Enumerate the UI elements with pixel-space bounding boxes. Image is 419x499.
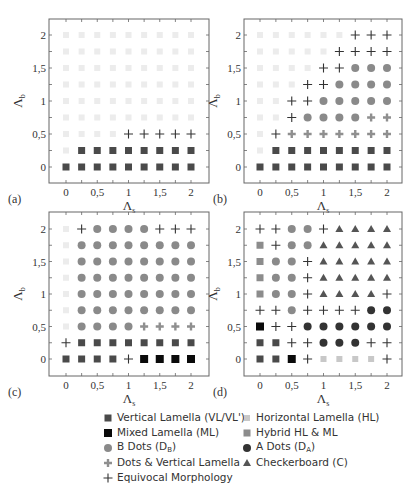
data-point-hl — [172, 65, 178, 71]
data-point-hl — [305, 65, 311, 71]
data-point-vl — [257, 339, 264, 346]
data-point-db — [93, 225, 101, 233]
data-point-eq — [335, 64, 344, 73]
y-tick-label: 0 — [41, 161, 47, 173]
data-point-db — [140, 258, 148, 266]
data-point-hl — [289, 49, 295, 55]
x-tick-label: 2 — [384, 186, 390, 198]
data-point-c — [351, 258, 359, 265]
panel-label: (b) — [213, 192, 227, 206]
panel-d: 00,511,5200,511,52ΛsΛb(d) — [205, 212, 402, 408]
data-point-db — [78, 306, 86, 314]
y-axis-label: Λb — [10, 94, 27, 107]
data-point-vl — [109, 147, 116, 154]
data-point-c — [320, 241, 328, 248]
x-tick-label: 2 — [188, 186, 194, 198]
data-point-hl — [188, 115, 194, 121]
data-point-hl — [321, 32, 327, 38]
data-point-ml — [104, 429, 112, 437]
data-point-hl — [63, 259, 69, 265]
data-point-dv — [187, 323, 195, 331]
x-tick-label: 0 — [63, 186, 69, 198]
data-point-eq — [303, 338, 312, 347]
data-point-dv — [288, 130, 296, 138]
data-point-dv — [367, 130, 375, 138]
data-point-vl — [188, 147, 195, 154]
data-point-db — [351, 97, 359, 105]
data-point-c — [335, 241, 343, 248]
data-point-vl — [109, 356, 116, 363]
data-point-hl — [141, 49, 147, 55]
data-point-hl — [157, 32, 163, 38]
data-point-hl — [63, 148, 69, 154]
data-point-vl — [352, 147, 359, 154]
data-point-hl — [257, 115, 263, 121]
data-point-eq — [287, 97, 296, 106]
data-point-hl — [110, 98, 116, 104]
x-tick-label: 1,5 — [153, 379, 167, 391]
data-point-hh — [257, 258, 264, 265]
data-point-dv — [383, 114, 391, 122]
data-point-eq — [171, 225, 180, 234]
data-point-c — [367, 274, 375, 281]
data-point-db — [171, 258, 179, 266]
data-point-da — [367, 306, 375, 314]
x-tick-label: 0 — [257, 379, 263, 391]
legend-item-ml: Mixed Lamella (ML) — [103, 425, 219, 439]
data-point-eq — [303, 80, 312, 89]
data-point-vl — [94, 356, 101, 363]
panel-b: 00,511,5200,511,52ΛsΛb(b) — [205, 19, 402, 215]
data-point-hl — [336, 32, 342, 38]
data-point-eq — [271, 225, 280, 234]
data-point-db — [335, 114, 343, 122]
data-point-hl — [94, 98, 100, 104]
data-point-eq — [187, 130, 196, 139]
legend-swatch-icon — [103, 413, 112, 422]
data-point-vl — [384, 147, 391, 154]
data-point-hl — [63, 49, 69, 55]
data-point-hl — [63, 307, 69, 313]
data-point-vl — [78, 356, 85, 363]
data-point-eq — [104, 473, 113, 482]
data-point-da — [243, 444, 251, 452]
data-point-db — [288, 258, 296, 266]
data-point-db — [272, 290, 280, 298]
data-point-eq — [303, 97, 312, 106]
data-point-eq — [256, 225, 265, 234]
data-point-eq — [271, 241, 280, 250]
data-point-db — [288, 241, 296, 249]
data-point-hl — [94, 82, 100, 88]
data-point-dv — [140, 323, 148, 331]
data-point-da — [320, 339, 328, 347]
data-point-da — [335, 339, 343, 347]
data-point-hl — [126, 32, 132, 38]
data-point-da — [351, 323, 359, 331]
data-point-vl — [272, 147, 279, 154]
x-axis-label: Λs — [317, 391, 330, 408]
data-point-db — [171, 274, 179, 282]
data-point-ml — [171, 355, 179, 363]
data-point-db — [320, 114, 328, 122]
data-point-c — [351, 225, 359, 232]
data-point-dv — [367, 114, 375, 122]
x-tick-label: 0,5 — [90, 379, 104, 391]
y-tick-label: 1,5 — [32, 256, 46, 268]
y-tick-label: 1 — [41, 288, 47, 300]
data-point-db — [156, 306, 164, 314]
data-point-hl — [273, 65, 279, 71]
data-point-db — [109, 323, 117, 331]
data-point-hl — [257, 131, 263, 137]
data-point-vl — [125, 147, 132, 154]
data-point-eq — [303, 257, 312, 266]
data-point-dv — [320, 130, 328, 138]
legend-label: Hybrid HL & ML — [256, 426, 338, 438]
data-point-vl — [63, 356, 70, 363]
data-point-hl — [157, 98, 163, 104]
data-point-db — [351, 64, 359, 72]
legend-label: A Dots (DA) — [256, 440, 315, 454]
data-point-hl — [94, 131, 100, 137]
data-point-hl — [94, 32, 100, 38]
data-point-hl — [110, 115, 116, 121]
data-point-eq — [155, 130, 164, 139]
data-point-hl — [79, 82, 85, 88]
